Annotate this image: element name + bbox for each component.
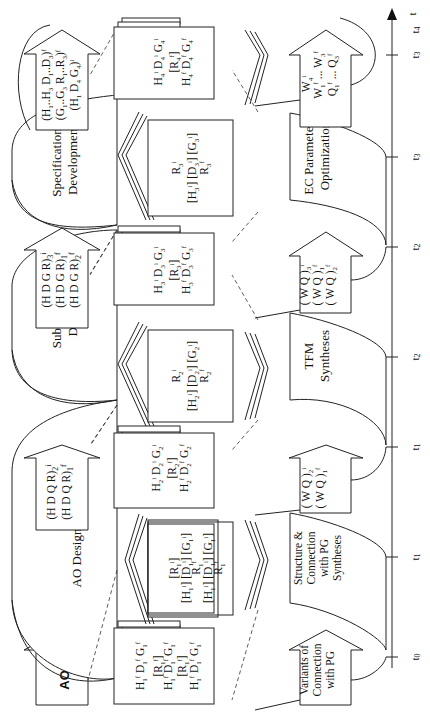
svg-text:t3: t3 <box>409 51 422 58</box>
svg-text:R1f: R1f <box>212 561 227 575</box>
tick-t2b: t2 <box>386 243 422 250</box>
svg-text:H3f D3f G3f: H3f D3f G3f <box>180 245 195 294</box>
svg-text:H1f D1f G1f: H1f D1f G1f <box>134 641 149 690</box>
stage-ec-parameters-optimization: EC Parameters Optimization <box>290 113 386 245</box>
time-axis: t t0 t1 t1 t2 t2 t3 t3 t4 <box>386 8 422 668</box>
lower-output-arrow-1: ( W Q )2i ( W Q )1f <box>289 445 386 513</box>
svg-text:t2: t2 <box>409 353 422 360</box>
tick-t4: t4 <box>409 26 422 33</box>
transition-box-3: R3i [H3i] [D3i] [G3i] R3f <box>118 112 233 220</box>
svg-text:with PG: with PG <box>324 651 336 689</box>
svg-text:t2: t2 <box>409 243 422 250</box>
svg-text:H1f D1f G1f: H1f D1f G1f <box>188 641 203 690</box>
lower-output-arrow-2: ( W Q )3i ( W Q )1f ( W Q )2f <box>289 232 386 313</box>
svg-text:Specifications: Specifications <box>49 123 64 197</box>
svg-text:H4f D4f G4f: H4f D4f G4f <box>180 37 195 86</box>
svg-text:Connection: Connection <box>311 643 323 696</box>
svg-text:AO Design: AO Design <box>69 528 84 587</box>
design-process-diagram: t t0 t1 t1 t2 t2 t3 t3 t4 AO AO Design (… <box>0 0 430 713</box>
tick-t3a: t3 <box>386 153 422 160</box>
svg-text:t1: t1 <box>409 553 422 560</box>
svg-text:Structure &: Structure & <box>292 531 304 585</box>
state-box-4: H4i D4i G4i [R4f] H4f D4f G4f <box>114 18 214 99</box>
svg-text:t0: t0 <box>409 653 422 660</box>
svg-text:Syntheses: Syntheses <box>317 330 332 382</box>
svg-text:H2f D2f G2f: H2f D2f G2f <box>178 443 193 492</box>
svg-text:t1: t1 <box>409 443 422 450</box>
transition-box-1: [R1i] [H1i] [D1i] [G1i] R1f [H1i] [D1i] … <box>125 514 227 624</box>
tick-t2a: t2 <box>386 353 422 360</box>
svg-text:Syntheses: Syntheses <box>331 534 344 581</box>
axis-label: t <box>406 12 418 15</box>
axis-arrow-icon <box>387 8 397 20</box>
svg-text:Variants of: Variants of <box>298 645 310 695</box>
stage3-output-arrow: (H1..H3 D1..D3)f (G1..G3 R1..R3)f (H1 D4… <box>18 25 100 130</box>
lower-output-arrow-3: W4i W1f ... W3f Q1f ... Q3f <box>289 18 375 127</box>
svg-text:H1f D1f G1f: H1f D1f G1f <box>162 641 177 690</box>
svg-text:Connection: Connection <box>305 531 317 584</box>
svg-text:Optimization: Optimization <box>317 121 332 190</box>
state-box-2: H2i D2i G2i [R2f] H2f D2f G2f <box>114 426 214 508</box>
tick-t3b: t3 <box>386 51 422 58</box>
transition-box-2: R2i [H2i] [D2i] [G2i] R2f <box>118 322 233 426</box>
tick-t1a: t1 <box>386 553 422 560</box>
state-box-1: H1f D1f G1f [R1f] H1f D1f G1f [R1f] H1f … <box>114 621 214 704</box>
lower-input-arrow: Variants of Connection with PG <box>289 630 386 705</box>
svg-text:t3: t3 <box>409 153 422 160</box>
stage-tfm-syntheses: TFM Syntheses <box>290 313 386 445</box>
svg-text:TFM: TFM <box>301 342 316 369</box>
svg-text:EC Parameters: EC Parameters <box>301 117 316 195</box>
svg-text:Development: Development <box>65 125 80 195</box>
stage-ao-design: AO Design <box>12 400 117 681</box>
tick-t0: t0 <box>386 653 422 660</box>
state-box-3: H3i D3i G3i [R3i] H3f D3f G3f <box>114 226 214 305</box>
svg-text:with PG: with PG <box>318 539 330 577</box>
stage-structure-connection: Structure & Connection with PG Syntheses <box>290 513 386 650</box>
tick-t1b: t1 <box>386 443 422 450</box>
